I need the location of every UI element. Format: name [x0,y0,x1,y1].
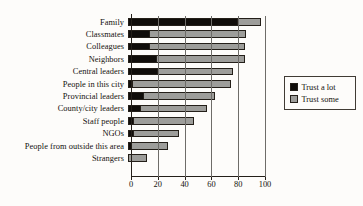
stacked-bar [128,105,207,113]
bar-segment [128,154,147,162]
bar-segment [128,30,149,38]
chart-row: Staff people [0,115,272,127]
chart-row: People in this city [0,78,272,90]
x-axis-tick-labels: 020406080100 [131,180,265,194]
bar-track [128,140,262,152]
stacked-bar [128,80,231,88]
stacked-bar [128,154,147,162]
figure: FamilyClassmatesColleaguesNeighborsCentr… [0,0,363,206]
category-label: Classmates [0,30,128,39]
bar-track [128,53,262,65]
bar-track [128,115,262,127]
chart-row: Classmates [0,28,272,40]
chart-row: Central leaders [0,66,272,78]
stacked-bar [128,55,245,63]
chart-row: NGOs [0,128,272,140]
bar-segment [128,92,143,100]
chart-row: Strangers [0,152,272,164]
chart-row: Neighbors [0,53,272,65]
category-label: Colleagues [0,42,128,51]
bar-track [128,66,262,78]
stacked-bar [128,117,194,125]
category-label: NGOs [0,129,128,138]
bar-segment [149,43,244,51]
bar-track [128,128,262,140]
bar-segment [237,18,261,26]
category-label: Provincial leaders [0,92,128,101]
bar-track [128,78,262,90]
legend-item-trust-a-lot: Trust a lot [290,81,350,93]
stacked-bar [128,68,233,76]
bar-segment [149,30,245,38]
chart-rows: FamilyClassmatesColleaguesNeighborsCentr… [0,16,272,165]
category-label: Central leaders [0,67,128,76]
chart-row: County/city leaders [0,103,272,115]
category-label: Strangers [0,154,128,163]
x-tick-label: 100 [259,180,272,190]
legend-item-trust-some: Trust some [290,93,350,105]
chart-row: Family [0,16,272,28]
stacked-bar [128,142,168,150]
stacked-bar [128,30,246,38]
category-label: County/city leaders [0,104,128,113]
legend-label: Trust a lot [302,83,336,92]
bar-segment [133,130,179,138]
bar-segment [156,55,244,63]
bar-track [128,28,262,40]
stacked-bar [128,43,245,51]
legend-label: Trust some [302,95,339,104]
bar-segment [132,80,231,88]
x-tick-label: 80 [234,180,242,190]
x-tick-label: 20 [154,180,162,190]
stacked-bar [128,18,261,26]
chart-row: Provincial leaders [0,90,272,102]
stacked-bar [128,130,179,138]
category-label: Staff people [0,117,128,126]
x-tick-label: 40 [180,180,188,190]
category-label: People from outside this area [0,142,128,151]
category-label: People in this city [0,80,128,89]
legend-swatch-icon [290,95,298,103]
bar-segment [128,55,156,63]
bar-segment [157,68,232,76]
x-tick-label: 0 [129,180,133,190]
bar-track [128,103,262,115]
category-label: Neighbors [0,55,128,64]
chart-row: People from outside this area [0,140,272,152]
bar-chart: FamilyClassmatesColleaguesNeighborsCentr… [0,8,272,198]
chart-row: Colleagues [0,41,272,53]
bar-track [128,16,262,28]
legend-swatch-icon [290,83,298,91]
bar-segment [140,105,207,113]
x-tick-label: 60 [207,180,215,190]
legend: Trust a lot Trust some [284,76,356,110]
stacked-bar [128,92,215,100]
bar-segment [128,18,237,26]
bar-segment [131,142,169,150]
bar-track [128,41,262,53]
bar-track [128,90,262,102]
bar-segment [128,68,157,76]
bar-track [128,152,262,164]
bar-segment [128,105,140,113]
bar-segment [143,92,215,100]
bar-segment [128,43,149,51]
x-axis-line [131,176,266,177]
category-label: Family [0,18,128,27]
bar-segment [133,117,193,125]
